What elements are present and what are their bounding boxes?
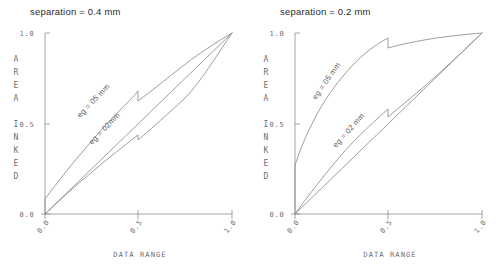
x-tick-label-0-0: 0.0: [36, 218, 52, 235]
y-axis-title-letter: R: [264, 68, 269, 77]
x-tick-label-1-0: 1.0: [223, 218, 239, 235]
y-axis-title-letter: N: [14, 133, 19, 142]
y-axis-title-letter: K: [264, 146, 269, 155]
y-axis-title-letter: A: [14, 94, 19, 103]
y-tick-label-1-0: 1.0: [19, 30, 34, 38]
y-axis-title-letter: D: [264, 172, 269, 181]
x-tick-label-0-5: 0.5: [129, 218, 145, 235]
y-axis-title-letter: E: [264, 159, 269, 168]
curve-label-eg-02mm: eg = 02 mm: [331, 111, 367, 149]
y-axis-title-letter: R: [14, 68, 19, 77]
x-axis-title: DATA RANGE: [113, 250, 166, 259]
plot-area-left: 1.0 0.5 0.0 0.0 0.5 1.0 DATA RANGE A R E…: [0, 0, 250, 265]
y-tick-label-0-5: 0.5: [19, 121, 34, 129]
y-axis-title-letter: I: [14, 120, 19, 129]
y-axis-title-letter: A: [264, 94, 269, 103]
y-axis-title-letter: K: [14, 146, 19, 155]
y-axis-title-letter: E: [14, 159, 19, 168]
plot-area-right: 1.0 0.5 0.0 0.0 0.5 1.0 DATA RANGE A R E…: [250, 0, 500, 265]
y-axis-title-letter: D: [14, 172, 19, 181]
x-axis-title: DATA RANGE: [363, 250, 416, 259]
y-tick-label-0-5: 0.5: [269, 121, 284, 129]
panel-separation-0-4: separation = 0.4 mm 1.0 0.5 0.0 0.0 0.5 …: [0, 0, 250, 265]
y-axis-title-letter: E: [264, 81, 269, 90]
x-tick-label-0-5: 0.5: [379, 218, 395, 235]
curve-label-eg-02mm: eg = 02mm: [87, 111, 122, 147]
curve-reference: [45, 33, 232, 214]
figure-root: separation = 0.4 mm 1.0 0.5 0.0 0.0 0.5 …: [0, 0, 500, 265]
y-tick-label-0-0: 0.0: [269, 211, 284, 219]
x-tick-label-1-0: 1.0: [473, 218, 489, 235]
x-tick-label-0-0: 0.0: [286, 218, 302, 235]
y-axis-title-letter: A: [14, 55, 19, 64]
y-tick-label-0-0: 0.0: [19, 211, 34, 219]
y-tick-label-1-0: 1.0: [269, 30, 284, 38]
y-axis-title-letter: I: [264, 120, 269, 129]
curve-label-eg-05mm: eg = 05 mm: [75, 82, 112, 119]
curve-label-eg-05mm: eg = 05 mm: [310, 61, 342, 102]
panel-separation-0-2: separation = 0.2 mm 1.0 0.5 0.0 0.0 0.5 …: [250, 0, 500, 265]
y-axis-title-letter: E: [14, 81, 19, 90]
y-axis-title-letter: A: [264, 55, 269, 64]
y-axis-title-letter: N: [264, 133, 269, 142]
